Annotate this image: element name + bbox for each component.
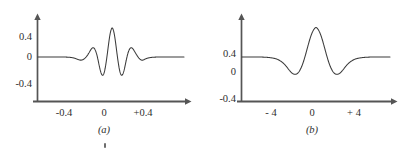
panel-a-x-tick-2: +0.4 — [126, 108, 160, 119]
panel-b-y-tick-2: -0.4 — [204, 94, 236, 105]
panel-b-x-tick-1: 0 — [304, 108, 320, 119]
figure-root: 0.4 0 -0.4 -0.4 0 +0.4 (a) 0.4 0 -0.4 — [0, 0, 405, 155]
panel-b-y-tick-0: 0.4 — [210, 49, 236, 60]
panel-a-curve — [38, 28, 184, 75]
panel-a-y-tick-1: 0 — [6, 52, 32, 63]
panel-a-caption: (a) — [91, 125, 117, 136]
panel-a-y-tick-0: 0.4 — [6, 32, 32, 43]
panel-a-y-tick-2: -0.4 — [2, 79, 32, 90]
stray-mark — [104, 143, 106, 148]
panel-b-x-tick-0: - 4 — [258, 108, 284, 119]
panel-b-x-tick-2: + 4 — [341, 108, 367, 119]
panel-a: 0.4 0 -0.4 -0.4 0 +0.4 (a) — [0, 0, 200, 155]
panel-b-curve — [242, 28, 390, 75]
panel-b-caption: (b) — [299, 125, 325, 136]
panel-a-x-tick-1: 0 — [95, 108, 113, 119]
panel-a-x-tick-0: -0.4 — [47, 108, 81, 119]
panel-b: 0.4 0 -0.4 - 4 0 + 4 (b) — [200, 0, 405, 155]
panel-b-y-tick-1: 0 — [210, 67, 236, 78]
